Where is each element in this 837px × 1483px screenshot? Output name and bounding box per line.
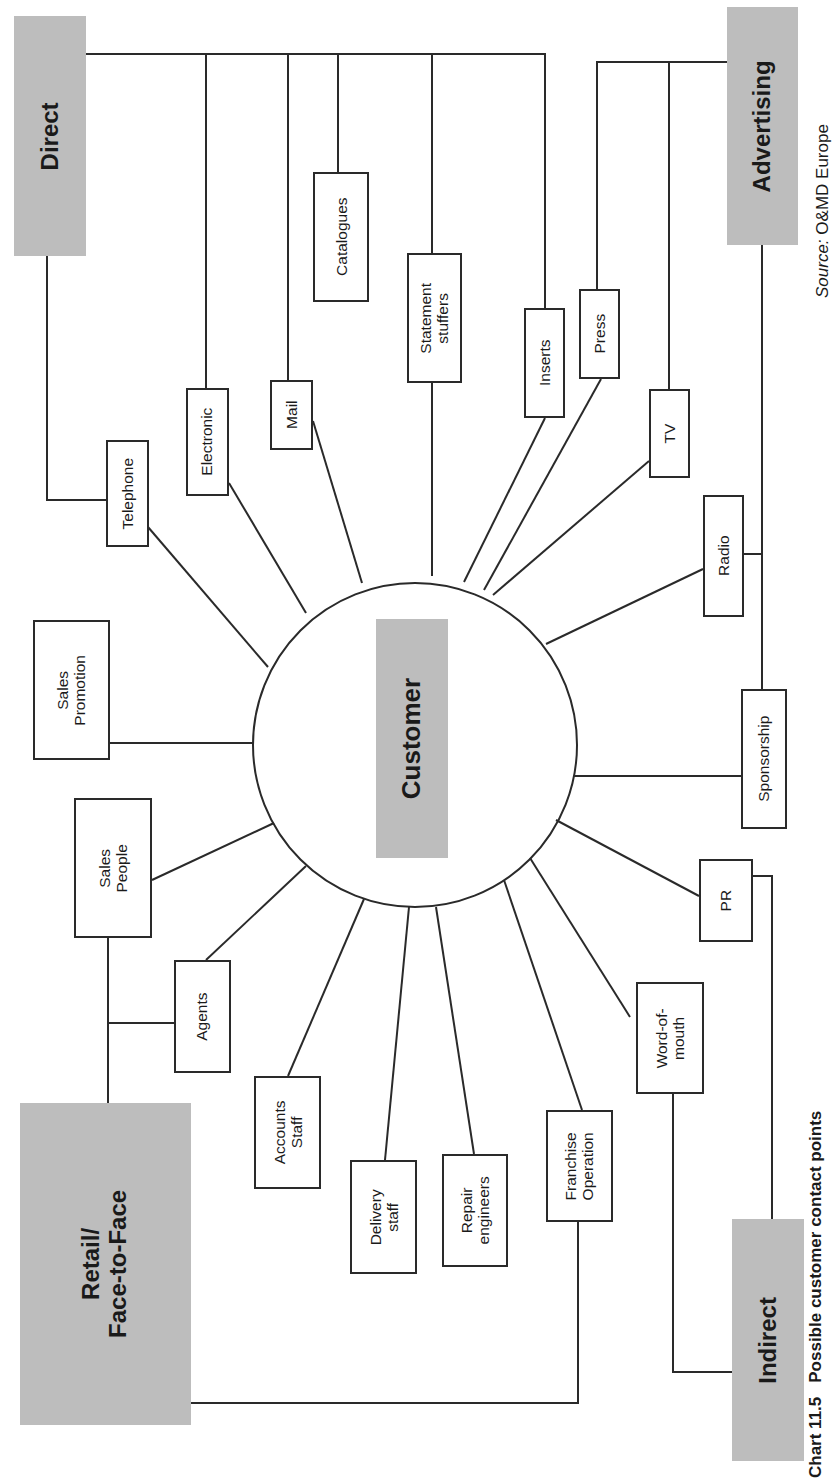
customer-label-box: Customer [376,619,448,858]
category-indirect-label: Indirect [755,1297,782,1384]
category-retail: Retail/ Face-to-Face [20,1103,191,1425]
contact-mail: Mail [270,380,313,450]
contact-repair-engineers: Repair engineers [442,1154,508,1267]
contact-tv: TV [649,389,690,478]
contact-inserts: Inserts [524,308,565,418]
contact-franchise-operation: Franchise Operation [546,1110,613,1222]
contact-press: Press [579,289,620,379]
contact-electronic: Electronic [186,388,229,496]
spoke-telephone [148,527,268,667]
spoke-repair-engineers [436,907,474,1154]
customer-label: Customer [397,678,426,799]
spoke-word-of-mouth [530,858,630,1017]
contact-catalogues: Catalogues [313,172,369,302]
spoke-radio [546,569,703,644]
spoke-electronic [229,483,306,613]
contact-pr: PR [699,859,753,942]
spoke-sales-people [152,823,274,880]
contact-agents: Agents [174,960,231,1073]
contact-telephone: Telephone [106,440,149,547]
contact-sponsorship: Sponsorship [741,689,787,829]
spoke-agents [206,866,306,960]
caption-number: Chart 11.5 [806,1397,825,1478]
spoke-accounts-staff [288,899,364,1076]
category-retail-label: Retail/ Face-to-Face [79,1190,133,1338]
spoke-pr [556,820,699,896]
figure-caption: Chart 11.5Possible customer contact poin… [806,1111,826,1478]
caption-title: Possible customer contact points [806,1111,825,1383]
contact-statement-stuffers: Statement stuffers [407,253,462,383]
indirect-bus [753,876,772,1219]
source-label: Source: [813,239,832,298]
contact-sales-promotion: Sales Promotion [33,620,110,760]
contact-accounts-staff: Accounts Staff [254,1076,321,1189]
category-direct: Direct [14,16,86,256]
spoke-delivery-staff [385,907,409,1160]
contact-delivery-staff: Delivery staff [350,1160,417,1274]
category-indirect: Indirect [732,1219,804,1461]
spoke-franchise-operation [504,880,582,1110]
category-advertising-label: Advertising [749,60,776,192]
source-note: Source: O&MD Europe [813,124,833,298]
spoke-tv [493,461,649,595]
spoke-mail [313,421,362,583]
contact-word-of-mouth: Word-of- mouth [636,982,704,1094]
category-direct-label: Direct [37,102,64,170]
source-value: O&MD Europe [813,124,832,235]
contact-sales-people: Sales People [74,798,152,938]
category-advertising: Advertising [727,7,798,245]
advertising-bus [597,62,727,289]
contact-radio: Radio [703,495,744,617]
